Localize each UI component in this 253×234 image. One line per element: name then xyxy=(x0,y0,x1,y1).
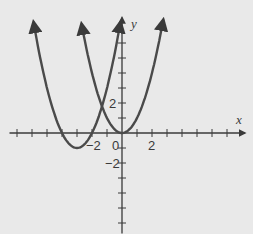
axis-labels: x y 0 −2 2 2 −2 xyxy=(86,16,242,171)
origin-label: 0 xyxy=(112,138,119,153)
parabola-graph: x y 0 −2 2 2 −2 xyxy=(0,0,253,234)
y-tick-label-neg2: −2 xyxy=(105,156,120,171)
x-tick-label-neg2: −2 xyxy=(86,138,101,153)
x-tick-label-2: 2 xyxy=(148,138,155,153)
axes xyxy=(10,18,246,234)
curves xyxy=(34,20,164,148)
x-axis-label: x xyxy=(235,112,242,127)
y-axis-label: y xyxy=(129,16,137,31)
y-tick-label-2: 2 xyxy=(109,96,116,111)
